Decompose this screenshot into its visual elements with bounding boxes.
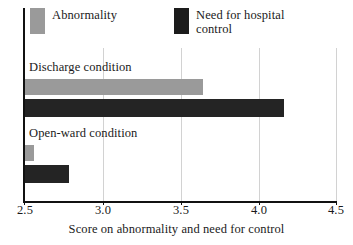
legend-swatch-abnormality <box>30 8 45 34</box>
bar-chart: Abnormality Need for hospital control Di… <box>0 0 353 245</box>
legend-label-need-for-hospital-control: Need for hospital control <box>196 8 284 36</box>
xtick-label-3-5: 3.5 <box>161 203 201 218</box>
bar-open-ward-condition-need-for-hospital-control <box>25 165 69 183</box>
bar-discharge-condition-abnormality <box>25 79 203 95</box>
xtick-label-4-5: 4.5 <box>316 203 353 218</box>
chart-legend: Abnormality Need for hospital control <box>0 0 353 48</box>
xtick-label-3-0: 3.0 <box>83 203 123 218</box>
bar-open-ward-condition-abnormality <box>25 145 34 161</box>
xtick-label-4-0: 4.0 <box>239 203 279 218</box>
xtick-label-2-5: 2.5 <box>5 203 45 218</box>
legend-item-need-for-hospital-control: Need for hospital control <box>174 8 284 36</box>
group-label-open-ward-condition: Open-ward condition <box>29 126 137 140</box>
plot-area: Discharge condition Open-ward condition <box>25 48 337 201</box>
legend-swatch-need-for-hospital-control <box>174 8 189 34</box>
group-label-discharge-condition: Discharge condition <box>29 60 132 74</box>
legend-label-abnormality: Abnormality <box>52 8 117 23</box>
gridline-4-0 <box>259 48 260 201</box>
gridline-3-5 <box>181 48 182 201</box>
gridline-4-5 <box>336 48 337 201</box>
legend-item-abnormality: Abnormality <box>30 8 117 34</box>
bar-discharge-condition-need-for-hospital-control <box>25 99 284 117</box>
x-axis-title: Score on abnormality and need for contro… <box>0 222 353 237</box>
